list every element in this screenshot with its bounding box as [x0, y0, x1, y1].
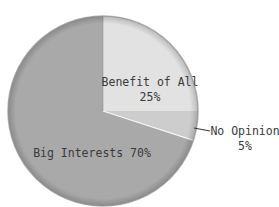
label-no-opinion: No Opinion [210, 124, 279, 138]
label-benefit-of-all-pct: 25% [140, 90, 161, 104]
pie-chart: Benefit of All 25% No Opinion 5% Big Int… [0, 0, 279, 207]
label-benefit-of-all: Benefit of All [102, 75, 199, 89]
label-big-interests: Big Interests 70% [33, 146, 151, 160]
pie-rim [8, 16, 198, 206]
label-no-opinion-pct: 5% [238, 139, 252, 153]
